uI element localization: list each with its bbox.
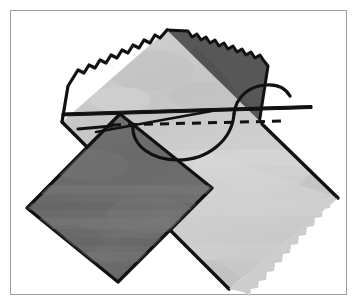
sewing-illustration [0,0,359,307]
illustration-canvas: Two squares of fabric with pinked edges … [0,0,359,307]
